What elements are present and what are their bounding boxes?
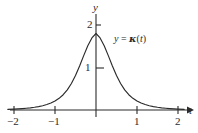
figure-bell-curve: y t 2 1 −2 −1 1 2 y = κ(t) bbox=[0, 0, 198, 133]
curve-annotation: y = κ(t) bbox=[114, 34, 146, 44]
y-tick-label-1: 1 bbox=[85, 62, 91, 73]
x-tick-label-2: 2 bbox=[175, 116, 181, 127]
kappa-symbol: κ bbox=[129, 33, 137, 44]
x-tick-label-minus2: −2 bbox=[7, 116, 19, 127]
curve-annotation-equals: = bbox=[118, 33, 129, 44]
y-tick-label-2: 2 bbox=[87, 19, 93, 30]
plot-canvas bbox=[0, 0, 198, 133]
x-tick-label-minus1: −1 bbox=[48, 116, 60, 127]
x-axis-label: t bbox=[189, 105, 192, 116]
curve-annotation-paren-close: ) bbox=[143, 33, 146, 44]
y-axis-label: y bbox=[93, 2, 98, 13]
x-tick-label-1: 1 bbox=[134, 116, 140, 127]
